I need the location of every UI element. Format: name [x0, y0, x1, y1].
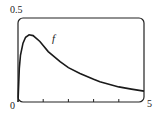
origin-label: 0	[10, 100, 15, 111]
y-max-label: 0.5	[10, 4, 23, 15]
curve-f	[18, 35, 144, 102]
plot-frame	[18, 18, 144, 102]
curve-label: f	[52, 32, 57, 44]
x-max-label: 5	[147, 98, 152, 109]
chart: 0.5 0 5 f	[0, 0, 157, 114]
